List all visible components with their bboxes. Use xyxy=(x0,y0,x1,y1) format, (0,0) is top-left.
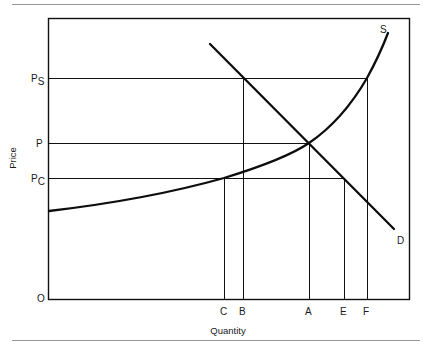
demand-curve xyxy=(210,44,394,229)
supply-curve-label: S xyxy=(380,24,387,35)
supply-demand-figure: S D PS P PC O C B A E F Price Quantity xyxy=(0,0,431,354)
price-tick-label-ps: PS xyxy=(31,73,45,87)
y-axis-title: Price xyxy=(7,147,18,169)
origin-label: O xyxy=(37,293,45,304)
quantity-tick-label-b: B xyxy=(239,306,246,317)
price-tick-label-p: P xyxy=(36,138,43,149)
quantity-tick-label-c: C xyxy=(220,306,227,317)
quantity-tick-label-e: E xyxy=(340,306,347,317)
x-axis-title: Quantity xyxy=(210,325,246,336)
quantity-tick-label-f: F xyxy=(363,306,369,317)
supply-curve xyxy=(49,33,388,211)
demand-curve-label: D xyxy=(397,235,404,246)
plot-frame xyxy=(49,19,410,300)
quantity-tick-label-a: A xyxy=(305,306,312,317)
price-tick-label-pc: PC xyxy=(31,173,45,187)
plot-canvas: S D PS P PC O C B A E F Price Quantity xyxy=(0,0,431,354)
